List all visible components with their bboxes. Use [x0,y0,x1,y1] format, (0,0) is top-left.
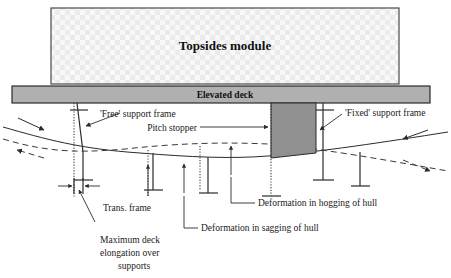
fixed-support-callout: 'Fixed' support frame [320,108,425,130]
pitch-stopper-wedge [271,103,316,158]
elevated-deck-label: Elevated deck [197,90,254,100]
hull-deformation-curves [3,127,448,171]
hogging-arrow-right [403,160,430,171]
hogging-arrow-left [17,150,44,158]
elongation-leader-line [79,190,95,222]
sagging-arrow-left [18,118,44,130]
trans-frame-callout: Trans. frame [103,203,151,213]
free-support-frame-label: 'Free' support frame [100,109,176,119]
max-elongation-line-3: supports [118,261,151,271]
deck-elongation-dimension [58,178,100,222]
elevated-deck-block: Elevated deck [12,86,430,103]
sagging-arrow-right [403,130,428,139]
fixed-support-frame-label: 'Fixed' support frame [345,108,425,118]
trans-frame-label: Trans. frame [103,203,151,213]
right-direction-arrows [403,130,430,171]
pitch-stopper-label: Pitch stopper [147,123,198,133]
transverse-frames [144,146,370,196]
max-elongation-line-1: Maximum deck [100,235,160,245]
deformation-sagging-label: Deformation in sagging of hull [201,223,319,233]
pitch-stopper-shape [262,103,316,196]
diagram-canvas: Topsides module Elevated deck [0,0,451,278]
pitch-stopper-callout: Pitch stopper [147,123,268,133]
max-elongation-callout: Maximum deck elongation over supports [100,235,160,271]
max-elongation-line-2: elongation over [100,248,160,258]
left-direction-arrows [17,118,44,158]
hogging-callout-leader [231,177,255,203]
sagging-hull-curve [3,127,448,157]
hogging-callout: Deformation in hogging of hull [231,177,378,208]
topsides-module-block: Topsides module [51,8,399,84]
deformation-hogging-label: Deformation in hogging of hull [258,198,378,208]
topsides-module-support-diagram: Topsides module Elevated deck [0,0,451,278]
sagging-callout-leader [184,196,198,228]
topsides-module-label: Topsides module [179,38,272,53]
